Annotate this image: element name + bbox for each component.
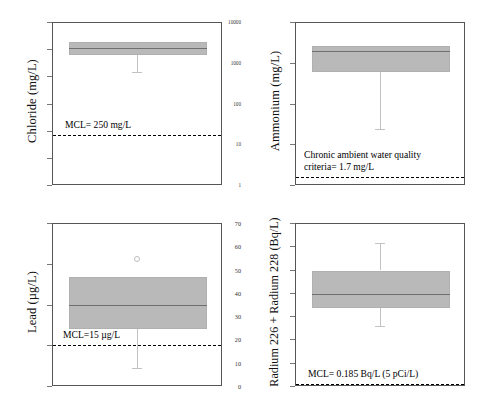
threshold-line-lead [53, 345, 221, 346]
whisker-high-cap-radium [375, 243, 385, 244]
panel-lead: Lead (µg/L) 10000 1000 100 10 1 [0, 201, 243, 402]
panel-ammonium: Ammonium (mg/L) 10000 1000 100 10 1 [243, 0, 486, 201]
median-line-lead [69, 305, 207, 306]
threshold-line-radium [296, 384, 464, 385]
figure-grid: Chloride (mg/L) 1000000 100000 10000 100… [0, 0, 486, 402]
annotation-ammonium: Chronic ambient water quality criteria= … [304, 149, 449, 173]
annotation-radium: MCL= 0.185 Bq/L (5 pCi/L) [308, 368, 418, 380]
panel-radium: Radium 226 + Radium 228 (Bq/L) 70 60 50 … [243, 201, 486, 402]
panel-chloride: Chloride (mg/L) 1000000 100000 10000 100… [0, 0, 243, 201]
plot-area-ammonium: Chronic ambient water quality criteria= … [295, 22, 465, 185]
annotation-lead: MCL=15 µg/L [63, 329, 120, 341]
whisker-low-radium [380, 308, 381, 327]
box-ammonium [312, 46, 450, 72]
median-line-radium [312, 294, 450, 295]
whisker-high-radium [380, 243, 381, 271]
y-axis-label-chloride: Chloride (mg/L) [24, 20, 40, 183]
plot-area-radium: MCL= 0.185 Bq/L (5 pCi/L) [295, 223, 465, 386]
whisker-low-cap-lead [132, 368, 142, 369]
outlier-point-lead [134, 256, 140, 262]
y-axis-label-ammonium: Ammonium (mg/L) [267, 20, 283, 183]
median-line-chloride [69, 48, 207, 49]
whisker-low-lead [137, 329, 138, 368]
plot-area-lead: MCL=15 µg/L [52, 223, 222, 386]
whisker-low-cap-radium [375, 326, 385, 327]
median-line-ammonium [312, 51, 450, 52]
box-lead [69, 277, 207, 329]
threshold-line-ammonium [296, 177, 464, 178]
threshold-line-chloride [53, 135, 221, 136]
y-axis-label-radium: Radium 226 + Radium 228 (Bq/L) [266, 202, 282, 402]
plot-area-chloride: MCL= 250 mg/L [52, 22, 222, 185]
y-axis-label-lead: Lead (µg/L) [24, 221, 40, 384]
box-radium [312, 271, 450, 308]
whisker-low-cap-ammonium [375, 129, 385, 130]
whisker-low-cap-chloride [132, 72, 142, 73]
annotation-chloride: MCL= 250 mg/L [65, 119, 131, 131]
